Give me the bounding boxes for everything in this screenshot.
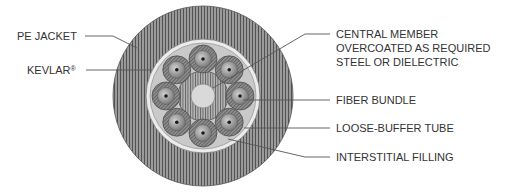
- buffer-tube: [189, 119, 217, 147]
- label-fiber-bundle: FIBER BUNDLE: [336, 93, 416, 107]
- registered-mark: ®: [70, 65, 75, 72]
- buffer-tube: [163, 108, 191, 136]
- buffer-tube: [163, 56, 191, 84]
- label-interstitial-filling: INTERSTITIAL FILLING: [336, 150, 454, 164]
- label-kevlar-text: KEVLAR: [27, 64, 70, 76]
- label-loose-buffer-tube: LOOSE-BUFFER TUBE: [336, 121, 454, 135]
- label-central-member-line-2: OVERCOATED AS REQUIRED: [336, 41, 490, 55]
- label-central-member: CENTRAL MEMBER OVERCOATED AS REQUIRED ST…: [336, 27, 490, 69]
- buffer-tube: [189, 45, 217, 73]
- buffer-tube: [226, 82, 254, 110]
- label-central-member-line-3: STEEL OR DIELECTRIC: [336, 55, 490, 69]
- label-kevlar: KEVLAR®: [27, 63, 76, 77]
- buffer-tube: [152, 82, 180, 110]
- buffer-tube: [215, 56, 243, 84]
- label-pe-jacket: PE JACKET: [17, 29, 77, 43]
- buffer-tube: [215, 108, 243, 136]
- label-central-member-line-1: CENTRAL MEMBER: [336, 27, 490, 41]
